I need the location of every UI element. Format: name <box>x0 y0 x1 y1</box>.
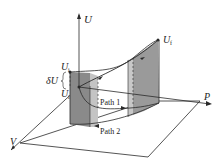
point-uf-right <box>157 39 160 42</box>
delta-u-brace <box>61 72 66 89</box>
p-axis-label: P <box>203 91 210 102</box>
v-axis-label: V <box>10 136 18 147</box>
u-axis-arrow <box>77 13 81 19</box>
u-axis-label: U <box>84 13 93 25</box>
path-1-label: Path 1 <box>100 98 120 107</box>
uf-right-sub: f <box>170 40 172 46</box>
point-ui <box>78 86 81 89</box>
shaded-panel-left <box>70 72 90 127</box>
delta-u-label: δU <box>46 75 59 86</box>
path-2-label: Path 2 <box>100 127 120 136</box>
thermodynamic-3d-diagram: U P V U i U i U f δU Path 1 Path 2 <box>0 0 219 167</box>
